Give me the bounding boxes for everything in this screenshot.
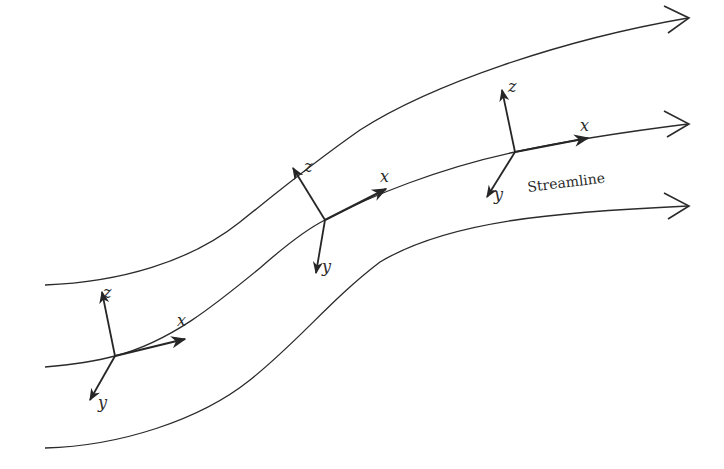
z-axis-label: z (102, 283, 112, 302)
coordinate-frame-2: x z y (293, 157, 389, 276)
streamline-diagram: Streamline x z y x z y x z y (0, 0, 724, 469)
x-axis-arrow-icon (115, 339, 185, 356)
y-axis-label: y (493, 185, 504, 204)
y-axis-label: y (321, 257, 332, 276)
x-axis-label: x (380, 167, 389, 186)
streamline-bottom (45, 206, 688, 448)
streamline-middle (45, 124, 688, 367)
z-axis-label: z (507, 77, 517, 96)
z-axis-arrow-icon (502, 90, 515, 152)
streamline-label: Streamline (526, 170, 605, 195)
coordinate-frame-1: x z y (90, 283, 186, 412)
z-axis-label: z (303, 157, 313, 176)
x-axis-label: x (177, 311, 186, 330)
x-axis-arrow-icon (515, 138, 588, 152)
streamline-top (45, 18, 688, 285)
x-axis-arrow-icon (325, 189, 386, 220)
x-axis-label: x (580, 116, 589, 135)
y-axis-label: y (97, 393, 108, 412)
